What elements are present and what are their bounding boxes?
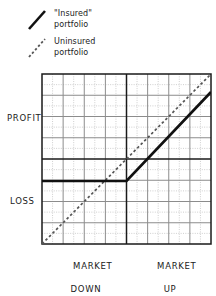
x-axis-label-market-down-line1: MARKET (73, 261, 112, 271)
x-axis-label-market-up: MARKET UP (132, 249, 208, 296)
y-axis-label-loss: LOSS (10, 196, 35, 207)
x-axis-label-market-down-line2: DOWN (48, 284, 124, 296)
x-axis-label-market-up-line2: UP (132, 284, 208, 296)
x-axis-label-market-down: MARKET DOWN (48, 249, 124, 296)
y-axis-label-profit: PROFIT (7, 113, 42, 124)
x-axis-label-market-up-line1: MARKET (157, 261, 196, 271)
